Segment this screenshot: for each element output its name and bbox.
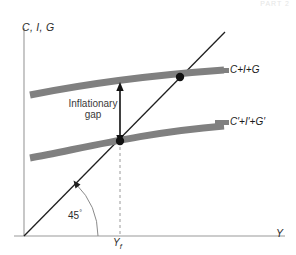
tick-label-subscript: f — [120, 242, 122, 251]
tick-label-base: Y — [113, 237, 120, 248]
lower-curve-legend-swatch — [215, 120, 229, 125]
angle-value: 45 — [68, 210, 79, 221]
curve-c-plus-i-plus-g — [30, 70, 224, 95]
lower-equilibrium-point — [116, 137, 124, 145]
y-axis-label: C, I, G — [22, 22, 54, 33]
degree-symbol: ° — [79, 209, 82, 216]
upper-curve-label: C+I+G — [230, 65, 259, 76]
gap-label-line-2: gap — [85, 109, 102, 120]
gap-label-line-1: Inflationary — [69, 98, 118, 109]
keynesian-cross-figure — [0, 0, 296, 255]
upper-equilibrium-point — [176, 73, 184, 81]
inflationary-gap-label: Inflationarygap — [62, 99, 124, 120]
angle-label: 45° — [68, 209, 82, 222]
forty-five-degree-line — [24, 32, 225, 236]
lower-curve-label: C′+I′+G′ — [230, 117, 265, 128]
x-axis-tick-label-yf: Yf — [113, 238, 122, 251]
upper-curve-legend-swatch — [215, 68, 229, 73]
x-axis-label: Y — [276, 228, 283, 239]
